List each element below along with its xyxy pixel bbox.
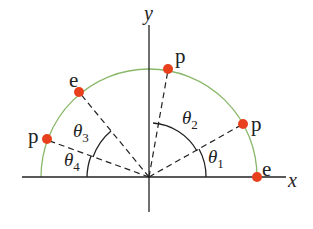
theta3-label: θ3 [73,120,89,145]
point-p-top [163,64,173,74]
theta1-label: θ1 [208,146,224,171]
angle-diagram: y x p p e e p θ1 θ2 θ3 θ4 [0,0,313,229]
label-p-right: p [251,112,262,136]
theta2-label: θ2 [182,107,198,132]
x-axis-label: x [287,169,297,191]
point-p-left [42,134,52,144]
point-p-right [238,119,248,129]
angle-arcs [87,123,206,177]
point-e-right [252,172,262,182]
ray-e-left [79,92,149,177]
theta3-arc [93,131,111,157]
theta1-arc [199,149,206,177]
label-p-left: p [28,124,39,148]
label-e-left: e [69,68,78,92]
y-axis-label: y [142,2,153,25]
theta4-arc [87,156,91,177]
label-e-right: e [262,157,271,181]
label-p-top: p [175,44,186,68]
theta4-label: θ4 [64,149,80,174]
